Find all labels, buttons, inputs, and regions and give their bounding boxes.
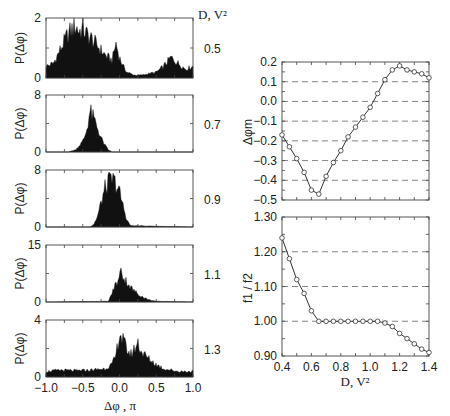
x-tick-label: 1.4 (421, 360, 438, 374)
data-marker (294, 277, 299, 282)
data-marker (405, 336, 410, 341)
y-tick-label: −0.2 (253, 134, 277, 148)
x-tick-label: 0.4 (274, 360, 291, 374)
left-x-axis-title: Δφ , π (104, 398, 137, 413)
data-marker (317, 319, 322, 324)
y-tick-label: 1.30 (254, 210, 278, 224)
data-marker (368, 319, 373, 324)
panel-d-label: 0.9 (204, 193, 221, 207)
x-tick-label: 0.6 (303, 360, 320, 374)
data-marker (339, 319, 344, 324)
histogram-panel: 20P(Δφ)0.5 (13, 11, 221, 85)
data-marker (405, 68, 410, 73)
y-axis-title: P(Δφ) (13, 108, 27, 140)
right-bottom-y-axis-title: f1 / f2 (241, 273, 255, 303)
y-tick-label: 0 (34, 145, 41, 159)
y-tick-label: −0.1 (253, 114, 277, 128)
x-tick-label: −0.5 (71, 381, 95, 395)
y-axis-title: P(Δφ) (13, 32, 27, 64)
data-marker (419, 72, 424, 77)
y-tick-label: 0.2 (260, 55, 277, 69)
plot-frame (282, 62, 429, 200)
data-marker (368, 105, 373, 110)
data-marker (287, 145, 292, 150)
data-marker (383, 77, 388, 82)
y-tick-label: 1.00 (254, 314, 278, 328)
data-marker (309, 309, 314, 314)
y-axis-title: P(Δφ) (13, 333, 27, 365)
x-tick-label: 0.8 (332, 360, 349, 374)
data-marker (331, 160, 336, 165)
y-axis-title: P(Δφ) (13, 258, 27, 290)
data-marker (412, 342, 417, 347)
y-tick-label: 0 (34, 71, 41, 85)
left-column-header: D, V² (198, 7, 227, 22)
x-tick-label: 1.0 (362, 360, 379, 374)
y-tick-label: 0 (34, 220, 41, 234)
line-chart-panel: 0.20.10.0−0.1−0.2−0.3−0.4−0.5 (253, 55, 431, 207)
histogram-column: 20P(Δφ)0.580P(Δφ)0.780P(Δφ)0.9150P(Δφ)1.… (13, 11, 221, 395)
y-tick-label: 0 (34, 295, 41, 309)
data-marker (324, 319, 329, 324)
panel-d-label: 0.5 (204, 42, 221, 56)
histogram-panel: 80P(Δφ)0.9 (13, 163, 221, 234)
data-marker (302, 170, 307, 175)
figure: 20P(Δφ)0.580P(Δφ)0.780P(Δφ)0.9150P(Δφ)1.… (0, 0, 450, 416)
y-tick-label: 0.1 (260, 75, 277, 89)
data-marker (361, 115, 366, 120)
histogram-panel: 80P(Δφ)0.7 (13, 88, 221, 159)
y-tick-label: 8 (34, 163, 41, 177)
y-tick-label: −0.3 (253, 154, 277, 168)
y-axis-title: P(Δφ) (13, 183, 27, 215)
histogram-fill (46, 105, 193, 152)
histogram-panel: 40P(Δφ)1.3−1.0−0.50.00.51.0 (13, 313, 221, 395)
right-x-axis-title: D, V² (341, 374, 370, 389)
line-chart-column: 0.20.10.0−0.1−0.2−0.3−0.4−0.51.301.201.1… (253, 55, 437, 374)
data-marker (317, 192, 322, 197)
data-marker (397, 331, 402, 336)
data-marker (353, 125, 358, 130)
line-chart-panel: 1.301.201.101.000.900.40.60.81.01.21.4 (254, 210, 438, 374)
data-marker (419, 347, 424, 352)
data-marker (294, 156, 299, 161)
data-marker (427, 76, 432, 81)
panel-d-label: 1.1 (204, 268, 221, 282)
data-marker (361, 319, 366, 324)
data-marker (375, 91, 380, 96)
data-marker (412, 70, 417, 75)
histogram-panel: 150P(Δφ)1.1 (13, 238, 221, 309)
data-marker (390, 324, 395, 329)
histogram-fill (46, 268, 193, 302)
histogram-fill (46, 18, 193, 78)
x-tick-label: 1.0 (185, 381, 202, 395)
y-tick-label: 1.10 (254, 280, 278, 294)
data-marker (287, 256, 292, 261)
right-top-y-axis-title: Δφm (241, 119, 255, 145)
histogram-fill (46, 172, 193, 227)
panel-d-label: 1.3 (204, 343, 221, 357)
data-marker (383, 321, 388, 326)
data-marker (280, 236, 285, 241)
y-tick-label: 0.0 (260, 94, 277, 108)
y-tick-label: 2 (34, 11, 41, 25)
x-tick-label: 1.2 (391, 360, 408, 374)
x-tick-label: −1.0 (34, 381, 58, 395)
plot-frame (46, 95, 193, 152)
data-marker (309, 188, 314, 193)
y-tick-label: −0.4 (253, 173, 277, 187)
data-marker (324, 174, 329, 179)
data-marker (375, 319, 380, 324)
data-marker (390, 68, 395, 73)
y-tick-label: 15 (28, 238, 42, 252)
data-marker (331, 319, 336, 324)
data-marker (339, 148, 344, 153)
data-marker (346, 135, 351, 140)
data-marker (353, 319, 358, 324)
data-marker (280, 133, 285, 138)
x-tick-label: 0.0 (111, 381, 128, 395)
panel-d-label: 0.7 (204, 118, 221, 132)
y-tick-label: 1.20 (254, 245, 278, 259)
y-tick-label: 4 (34, 313, 41, 327)
y-tick-label: −0.5 (253, 193, 277, 207)
x-tick-label: 0.5 (148, 381, 165, 395)
